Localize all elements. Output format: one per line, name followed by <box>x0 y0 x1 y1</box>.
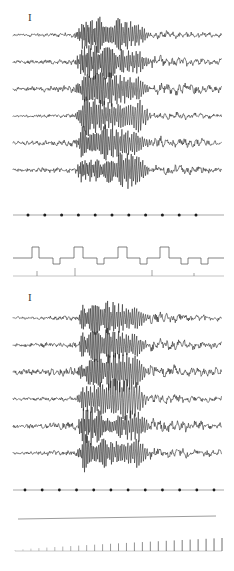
timing-dot-trace-upper-dot <box>195 214 198 217</box>
timing-dot-trace-upper-dot <box>111 214 114 217</box>
timing-dot-trace-lower-dot <box>58 489 61 492</box>
recording-canvas <box>0 0 234 571</box>
timing-dot-trace-upper-dot <box>77 214 80 217</box>
timing-dot-trace-lower-dot <box>41 489 44 492</box>
panel-1-calibration-bar: I <box>28 12 32 23</box>
timing-dot-trace-lower-dot <box>161 489 164 492</box>
timing-dot-trace-upper-dot <box>144 214 147 217</box>
timing-dot-trace-upper-dot <box>161 214 164 217</box>
timing-dot-trace-upper-dot <box>60 214 63 217</box>
timing-dot-trace-lower-dot <box>92 489 95 492</box>
timing-dot-trace-upper-dot <box>94 214 97 217</box>
timing-dot-trace-lower-dot <box>127 489 130 492</box>
timing-dot-trace-upper-dot <box>43 214 46 217</box>
page-background <box>0 0 234 571</box>
timing-dot-trace-lower-dot <box>144 489 147 492</box>
recording-page: I I <box>0 0 234 571</box>
timing-dot-trace-lower-dot <box>195 489 198 492</box>
timing-dot-trace-upper-dot <box>127 214 130 217</box>
timing-dot-trace-lower-dot <box>75 489 78 492</box>
timing-dot-trace-lower-dot <box>178 489 181 492</box>
timing-dot-trace-lower-dot <box>24 489 27 492</box>
timing-dot-trace-lower-dot <box>110 489 113 492</box>
timing-dot-trace-upper-dot <box>27 214 30 217</box>
timing-dot-trace-lower-dot <box>213 489 216 492</box>
panel-2-calibration-bar: I <box>28 292 32 303</box>
timing-dot-trace-upper-dot <box>178 214 181 217</box>
